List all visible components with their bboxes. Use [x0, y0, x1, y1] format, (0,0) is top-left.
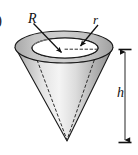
- panel-label: ): [0, 13, 2, 28]
- inner-radius-label: r: [93, 13, 98, 26]
- cone-figure: ) R r h: [0, 0, 138, 155]
- height-label: h: [117, 86, 124, 100]
- cone-diagram-svg: [0, 0, 138, 155]
- rim-group: [15, 28, 113, 63]
- outer-radius-label: R: [28, 12, 37, 26]
